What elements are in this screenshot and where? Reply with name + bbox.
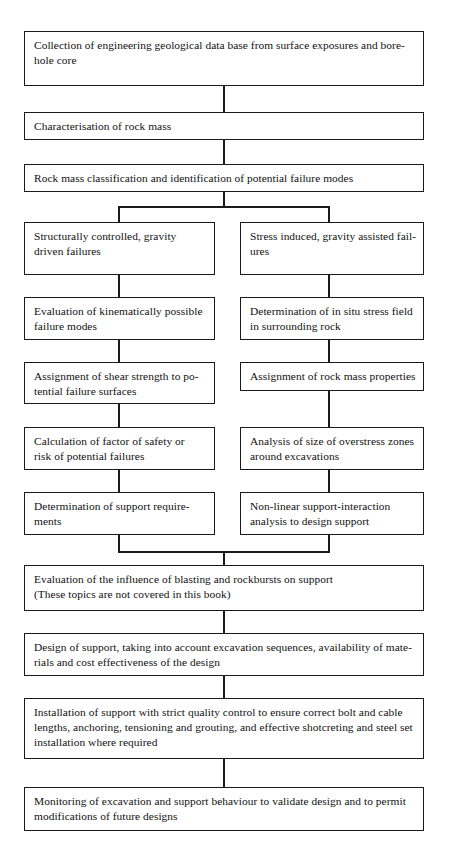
node-text-line: Characterisation of rock mass bbox=[34, 119, 414, 134]
in-situ-stress-determination-box[interactable]: Determination of in situ stress field in… bbox=[240, 297, 424, 340]
connector-support-requirements-to-merge bbox=[118, 535, 120, 551]
non-linear-support-interaction-box[interactable]: Non-linear support-interaction analysis … bbox=[240, 492, 424, 535]
node-text-line: Monitoring of excavation and support beh… bbox=[34, 794, 414, 809]
installation-of-support-box[interactable]: Installation of support with strict qual… bbox=[24, 698, 424, 759]
stress-induced-failures-box[interactable]: Stress induced, gravity assisted fail- u… bbox=[240, 222, 424, 275]
node-text-line: tential failure surfaces bbox=[34, 384, 205, 399]
connector-shear-strength-to-factor-of-safety bbox=[118, 404, 120, 427]
factor-of-safety-calculation-box[interactable]: Calculation of factor of safety or risk … bbox=[24, 427, 215, 470]
design-of-support-box[interactable]: Design of support, taking into account e… bbox=[24, 633, 424, 676]
rock-mass-properties-assignment-box[interactable]: Assignment of rock mass properties bbox=[240, 362, 424, 391]
node-text-line: driven failures bbox=[34, 244, 205, 259]
kinematic-evaluation-box[interactable]: Evaluation of kinematically possible fai… bbox=[24, 297, 215, 340]
node-text-line: Design of support, taking into account e… bbox=[34, 640, 414, 655]
node-text-line: installation where required bbox=[34, 735, 414, 750]
connector-installation-to-monitoring bbox=[223, 759, 225, 787]
overstress-zone-analysis-box[interactable]: Analysis of size of overstress zones aro… bbox=[240, 427, 424, 470]
connector-rock-mass-properties-to-overstress bbox=[328, 391, 330, 427]
node-text-line: around excavations bbox=[250, 449, 414, 464]
node-text-line: Assignment of rock mass properties bbox=[250, 369, 414, 384]
rock-mass-classification-box[interactable]: Rock mass classification and identificat… bbox=[24, 164, 424, 192]
node-text-line: Evaluation of kinematically possible bbox=[34, 304, 205, 319]
connector-split-to-left-branch bbox=[118, 206, 120, 222]
node-text-line: Structurally controlled, gravity bbox=[34, 229, 205, 244]
connector-blasting-to-design-of-support bbox=[223, 611, 225, 633]
connector-split-to-right-branch bbox=[328, 206, 330, 222]
connector-structurally-controlled-to-kinematic bbox=[118, 275, 120, 297]
rock-engineering-design-flowchart: Collection of engineering geological dat… bbox=[0, 0, 455, 857]
node-text-line: Determination of in situ stress field bbox=[250, 304, 414, 319]
node-text-line: hole core bbox=[34, 53, 414, 68]
rock-mass-characterisation-box[interactable]: Characterisation of rock mass bbox=[24, 112, 424, 140]
node-text-line: Collection of engineering geological dat… bbox=[34, 38, 414, 53]
node-text-line: Assignment of shear strength to po- bbox=[34, 369, 205, 384]
node-text-line: Determination of support require- bbox=[34, 499, 205, 514]
node-text-line: Rock mass classification and identificat… bbox=[34, 171, 414, 186]
node-text-line: Installation of support with strict qual… bbox=[34, 705, 414, 720]
node-text-line: failure modes bbox=[34, 319, 205, 334]
connector-data-collection-to-characterisation bbox=[223, 86, 225, 112]
node-text-line: Evaluation of the influence of blasting … bbox=[34, 572, 414, 587]
monitoring-of-excavation-box[interactable]: Monitoring of excavation and support beh… bbox=[24, 787, 424, 831]
connector-in-situ-stress-to-rock-mass-properties bbox=[328, 340, 330, 362]
connector-stress-induced-to-in-situ-stress bbox=[328, 275, 330, 297]
node-text-line: lengths, anchoring, tensioning and grout… bbox=[34, 720, 414, 735]
node-text-line: Analysis of size of overstress zones bbox=[250, 434, 414, 449]
data-collection-box[interactable]: Collection of engineering geological dat… bbox=[24, 31, 424, 86]
node-text-line: Non-linear support-interaction bbox=[250, 499, 414, 514]
node-text-line: ments bbox=[34, 514, 205, 529]
blasting-and-rockbursts-evaluation-box[interactable]: Evaluation of the influence of blasting … bbox=[24, 565, 424, 611]
connector-kinematic-to-shear-strength bbox=[118, 340, 120, 362]
support-requirements-determination-box[interactable]: Determination of support require- ments bbox=[24, 492, 215, 535]
connector-factor-of-safety-to-support-requirements bbox=[118, 470, 120, 492]
connector-characterisation-to-classification bbox=[223, 140, 225, 164]
node-text-line: rials and cost effectiveness of the desi… bbox=[34, 655, 414, 670]
connector-split-horizontal-bus bbox=[118, 206, 330, 208]
connector-non-linear-analysis-to-merge bbox=[328, 535, 330, 551]
connector-overstress-to-non-linear-analysis bbox=[328, 470, 330, 492]
structurally-controlled-failures-box[interactable]: Structurally controlled, gravity driven … bbox=[24, 222, 215, 275]
node-text-line: modifications of future designs bbox=[34, 809, 414, 824]
node-text-line: analysis to design support bbox=[250, 514, 414, 529]
node-text-line: risk of potential failures bbox=[34, 449, 205, 464]
node-text-line: (These topics are not covered in this bo… bbox=[34, 587, 414, 602]
node-text-line: in surrounding rock bbox=[250, 319, 414, 334]
connector-classification-to-split bbox=[223, 192, 225, 206]
connector-merge-to-blasting-box bbox=[223, 551, 225, 565]
connector-design-of-support-to-installation bbox=[223, 676, 225, 698]
node-text-line: Stress induced, gravity assisted fail- bbox=[250, 229, 414, 244]
shear-strength-assignment-box[interactable]: Assignment of shear strength to po- tent… bbox=[24, 362, 215, 404]
node-text-line: Calculation of factor of safety or bbox=[34, 434, 205, 449]
node-text-line: ures bbox=[250, 244, 414, 259]
